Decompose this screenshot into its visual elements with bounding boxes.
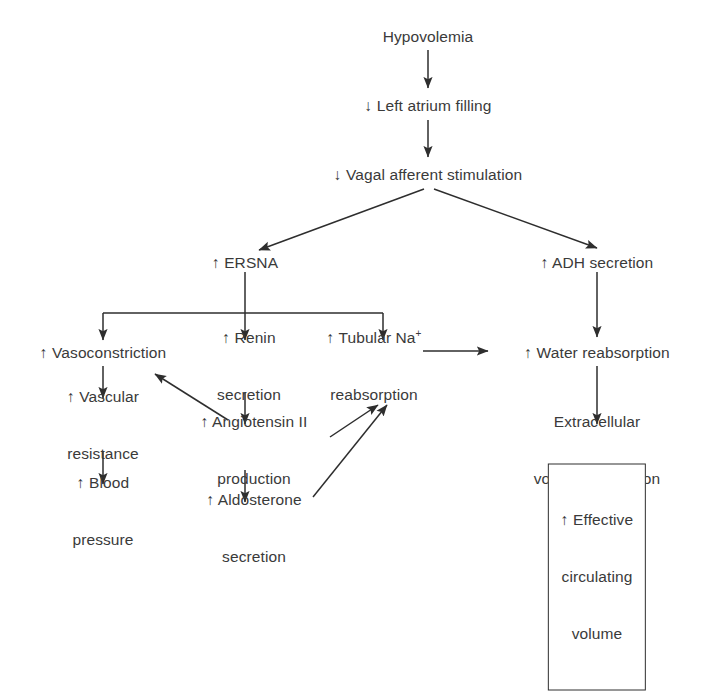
node-renin-secretion-line1: ↑ Renin [217,328,281,347]
node-ersna-label: ↑ ERSNA [212,253,278,272]
node-tubular-na-reabsorption: ↑ Tubular Na+ reabsorption [326,290,421,442]
node-extracellular-volume-expansion-line1: Extracellular [534,412,661,431]
node-vascular-resistance-line1: ↑ Vascular [67,387,139,406]
superscript-plus-icon: + [416,328,422,339]
node-blood-pressure-line2: pressure [72,530,133,549]
node-aldosterone-secretion: ↑ Aldosterone secretion [206,452,301,604]
node-adh-secretion-label: ↑ ADH secretion [541,253,654,272]
node-aldosterone-secretion-line2: secretion [206,547,301,566]
node-effective-circulating-volume-line2: circulating [561,567,633,586]
node-blood-pressure-line1: ↑ Blood [72,473,133,492]
node-effective-circulating-volume-line1: ↑ Effective [561,510,633,529]
node-vagal-afferent-stimulation-label: ↓ Vagal afferent stimulation [334,165,522,184]
node-tubular-na-text: ↑ Tubular Na [326,329,415,346]
node-tubular-na-reabsorption-line2: reabsorption [326,385,421,404]
node-vagal-afferent-stimulation: ↓ Vagal afferent stimulation [334,127,522,222]
node-effective-circulating-volume-line3: volume [561,624,633,643]
node-aldosterone-secretion-line1: ↑ Aldosterone [206,490,301,509]
node-tubular-na-reabsorption-line1: ↑ Tubular Na+ [326,328,421,347]
node-left-atrium-filling-label: ↓ Left atrium filling [364,96,491,115]
node-hypovolemia-label: Hypovolemia [383,27,474,46]
node-angiotensin-ii-production-line1: ↑ Angiotensin II [201,412,308,431]
node-effective-circulating-volume: ↑ Effective circulating volume [548,464,646,691]
node-blood-pressure: ↑ Blood pressure [72,435,133,587]
node-water-reabsorption-label: ↑ Water reabsorption [524,343,669,362]
node-adh-secretion: ↑ ADH secretion [541,215,654,310]
